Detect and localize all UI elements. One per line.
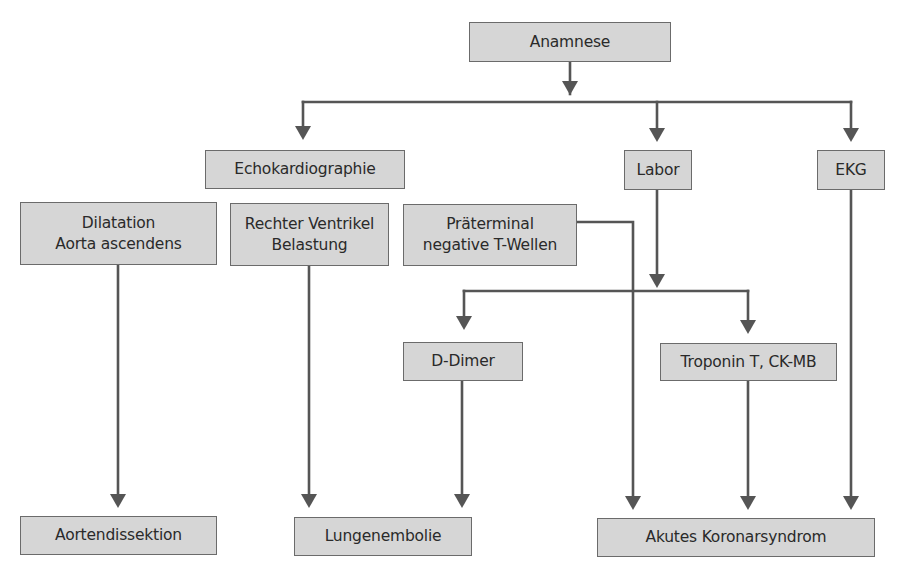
node-label: Aortendissektion — [55, 525, 182, 546]
node-label: Echokardiographie — [234, 159, 375, 180]
node-label: EKG — [835, 160, 866, 181]
node-label-line-1: Präterminal — [446, 214, 534, 235]
node-label: D-Dimer — [431, 351, 494, 372]
node-rechter-ventrikel-belastung: Rechter Ventrikel Belastung — [230, 203, 389, 266]
node-label-line-2: Aorta ascendens — [55, 234, 181, 255]
node-label-line-1: Rechter Ventrikel — [245, 214, 374, 235]
arrowhead-icon — [649, 274, 665, 288]
node-label: Labor — [637, 160, 680, 181]
node-dilatation-aorta-ascendens: Dilatation Aorta ascendens — [20, 202, 217, 265]
node-ekg: EKG — [817, 150, 885, 190]
arrowhead-icon — [110, 494, 126, 508]
node-troponin-ck-mb: Troponin T, CK-MB — [660, 343, 837, 381]
node-anamnese: Anamnese — [469, 22, 671, 62]
node-label: Anamnese — [530, 32, 610, 53]
arrowhead-icon — [295, 126, 311, 140]
arrowhead-icon — [625, 496, 641, 510]
arrowhead-icon — [562, 81, 578, 95]
edge-praeterminal-akutes — [577, 222, 633, 496]
arrowhead-icon — [740, 320, 756, 334]
node-praeterminal-negative-t-wellen: Präterminal negative T-Wellen — [403, 204, 577, 266]
flowchart-canvas: Anamnese Echokardiographie Labor EKG Dil… — [0, 0, 904, 574]
node-label-line-2: Belastung — [272, 235, 348, 256]
node-label: Troponin T, CK-MB — [681, 352, 817, 373]
arrowhead-icon — [649, 128, 665, 142]
arrowhead-icon — [843, 128, 859, 142]
flowchart-edges — [0, 0, 904, 574]
node-labor: Labor — [624, 150, 692, 190]
node-label-line-1: Dilatation — [82, 213, 155, 234]
node-label-line-2: negative T-Wellen — [423, 235, 557, 256]
arrowhead-icon — [456, 316, 472, 330]
node-label: Akutes Koronarsyndrom — [646, 527, 827, 548]
arrowhead-icon — [454, 494, 470, 508]
node-lungenembolie: Lungenembolie — [294, 517, 472, 556]
node-echokardiographie: Echokardiographie — [205, 150, 405, 189]
node-d-dimer: D-Dimer — [403, 342, 523, 381]
arrowhead-icon — [740, 496, 756, 510]
node-aortendissektion: Aortendissektion — [20, 516, 217, 555]
arrowhead-icon — [301, 494, 317, 508]
node-label: Lungenembolie — [325, 526, 442, 547]
node-akutes-koronarsyndrom: Akutes Koronarsyndrom — [597, 518, 875, 557]
arrowhead-icon — [843, 496, 859, 510]
